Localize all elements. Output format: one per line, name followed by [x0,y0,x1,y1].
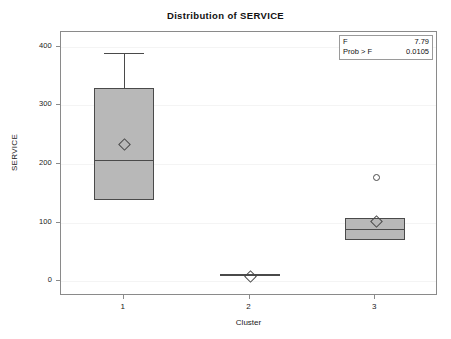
outlier-point [373,174,380,181]
prob-value: 0.0105 [406,47,429,57]
y-tick-text: 300 [4,99,52,108]
x-tick-mark-1 [123,295,124,299]
plot-area: F 7.79 Prob > F 0.0105 [60,31,437,295]
x-tick-label-1: 1 [103,302,143,311]
f-value: 7.79 [414,37,429,47]
y-tick-label-300: 300 [0,99,52,109]
y-tick-label-200: 200 [0,158,52,168]
y-tick-label-400: 400 [0,41,52,51]
stat-row-prob: Prob > F 0.0105 [343,47,429,57]
y-tick-text: 400 [4,41,52,50]
stat-row-f: F 7.79 [343,37,429,47]
x-tick-label-3: 3 [354,302,394,311]
x-tick-label-2: 2 [229,302,269,311]
median-line [345,229,405,230]
f-label: F [343,37,354,47]
chart-title: Distribution of SERVICE [0,10,451,21]
y-tick-text: 0 [4,275,52,284]
x-tick-mark-3 [374,295,375,299]
y-tick-label-0: 0 [0,275,52,285]
boxplot-figure: Distribution of SERVICE SERVICE 01002003… [0,0,451,339]
x-axis-label: Cluster [60,318,437,327]
x-tick-mark-2 [249,295,250,299]
prob-label: Prob > F [343,47,378,57]
y-tick-text: 200 [4,158,52,167]
box-plot-cluster-3 [61,32,436,294]
anova-stats-box: F 7.79 Prob > F 0.0105 [339,35,433,60]
y-tick-text: 100 [4,217,52,226]
y-tick-label-100: 100 [0,217,52,227]
y-axis-label: SERVICE [10,123,19,183]
